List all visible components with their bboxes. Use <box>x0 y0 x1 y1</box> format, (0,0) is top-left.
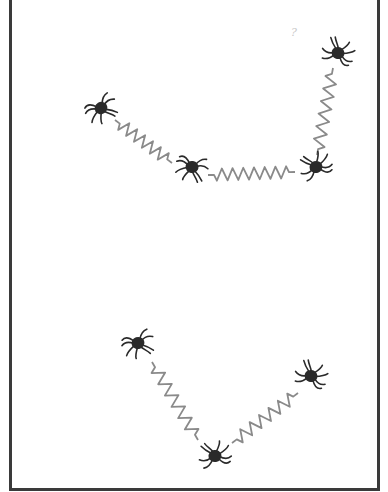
spider-spring-diagram <box>0 0 388 492</box>
spider-icon <box>293 357 331 390</box>
spider-icon <box>320 34 358 67</box>
spring-icon <box>152 362 199 440</box>
spider-icon <box>174 154 210 183</box>
spring-icon <box>115 120 172 163</box>
spring-icon <box>232 393 298 443</box>
spider-icon <box>296 148 334 181</box>
spider-icon <box>120 328 158 361</box>
lower-chain <box>120 328 331 468</box>
spider-icon <box>197 439 233 468</box>
spider-icon <box>82 91 122 128</box>
upper-chain <box>82 34 358 183</box>
spring-icon <box>208 166 295 180</box>
spring-icon <box>314 68 336 155</box>
